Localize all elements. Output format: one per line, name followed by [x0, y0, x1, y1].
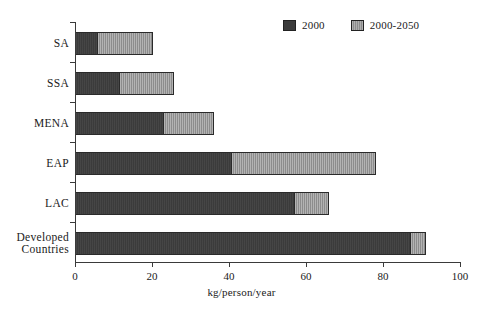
x-axis-tick-label: 100 [452, 270, 469, 282]
x-axis-tick [460, 262, 461, 267]
x-axis-tick-label: 0 [72, 270, 78, 282]
y-axis-label-ssa: SSA [47, 77, 69, 89]
y-axis-label-eap: EAP [46, 157, 69, 169]
bar-segment-series-2000 [76, 152, 232, 175]
x-axis-tick [152, 262, 153, 267]
x-axis-tick-label: 60 [301, 270, 312, 282]
bar-segment-series-2000-2050 [98, 32, 153, 55]
bar-segment-series-2000 [76, 72, 120, 95]
y-axis-tick [70, 142, 75, 143]
y-axis-tick [70, 62, 75, 63]
y-axis-tick [70, 22, 75, 23]
bar-segment-series-2000-2050 [120, 72, 174, 95]
x-axis-tick-label: 80 [378, 270, 389, 282]
bar-segment-series-2000 [76, 112, 164, 135]
x-axis-tick [75, 262, 76, 267]
x-axis-tick [383, 262, 384, 267]
y-axis-label-sa: SA [54, 37, 69, 49]
x-axis-tick [306, 262, 307, 267]
bar-segment-series-2000-2050 [164, 112, 214, 135]
x-axis-tick-label: 20 [147, 270, 158, 282]
y-axis-label-developed-countries: Developed Countries [16, 231, 69, 255]
bar-segment-series-2000-2050 [295, 192, 328, 215]
y-axis-tick [70, 222, 75, 223]
x-axis-line [75, 262, 460, 263]
x-axis-tick-label: 40 [224, 270, 235, 282]
y-axis-label-mena: MENA [34, 117, 69, 129]
y-axis-tick [70, 182, 75, 183]
stacked-bar-chart: 2000 2000-2050 SA SSA MENA EAP LAC Devel… [0, 0, 483, 310]
bar-segment-series-2000 [76, 232, 411, 255]
plot-area: 020406080100 [75, 22, 460, 262]
bar-segment-series-2000-2050 [411, 232, 426, 255]
y-axis-label-lac: LAC [45, 197, 69, 209]
bar-segment-series-2000-2050 [232, 152, 376, 175]
x-axis-title: kg/person/year [0, 286, 483, 298]
y-axis-tick [70, 102, 75, 103]
y-axis-line [75, 22, 76, 262]
bar-segment-series-2000 [76, 32, 98, 55]
bar-segment-series-2000 [76, 192, 295, 215]
x-axis-tick [229, 262, 230, 267]
